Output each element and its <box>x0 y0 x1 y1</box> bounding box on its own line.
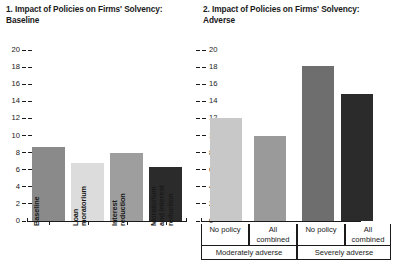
x-tick-mark <box>88 222 89 225</box>
bar <box>341 94 373 221</box>
y-tick-mark <box>22 186 26 187</box>
y-tick-mark <box>22 152 26 153</box>
x-axis-line-right <box>201 221 361 222</box>
category-cell: No policy <box>297 224 345 246</box>
category-cell: No policy <box>201 224 249 246</box>
y-tick-mark <box>28 50 32 51</box>
y-tick-mark <box>196 221 200 222</box>
y-tick-mark <box>202 50 206 51</box>
y-tick-label: 14 <box>12 97 20 105</box>
y-tick-mark <box>22 50 26 51</box>
y-tick-mark <box>196 84 200 85</box>
group-cell: Severely adverse <box>297 246 391 260</box>
y-tick-mark <box>196 118 200 119</box>
y-tick-mark <box>202 118 206 119</box>
y-tick-label: 4 <box>16 183 20 191</box>
y-tick-mark <box>202 101 206 102</box>
y-tick-mark <box>202 135 206 136</box>
panel-baseline: 1. Impact of Policies on Firms' Solvency… <box>0 0 197 272</box>
y-tick-mark <box>196 186 200 187</box>
y-tick-mark <box>22 67 26 68</box>
y-tick-label: 20 <box>209 46 217 54</box>
y-tick-label: 8 <box>16 149 20 157</box>
x-tick-mark <box>49 222 50 225</box>
x-category-label: Moratorium and interest reduction <box>150 182 175 226</box>
y-tick-mark <box>22 203 26 204</box>
x-tick-mark <box>166 222 167 225</box>
y-tick-mark <box>196 101 200 102</box>
y-tick-label: 2 <box>16 200 20 208</box>
plot-area-adverse: 02468101214161820 <box>201 50 361 222</box>
x-category-label: Baseline <box>33 182 41 226</box>
y-tick-label: 14 <box>209 97 217 105</box>
y-tick-mark <box>202 84 206 85</box>
panel-title-adverse: 2. Impact of Policies on Firms' Solvency… <box>203 4 391 26</box>
y-tick-mark <box>202 203 206 204</box>
bar <box>254 136 286 222</box>
x-tick-mark <box>127 222 128 225</box>
y-tick-mark <box>196 152 200 153</box>
y-tick-mark <box>28 118 32 119</box>
y-tick-mark <box>202 67 206 68</box>
bar <box>302 66 334 221</box>
x-category-label: Loan moratorium <box>72 182 89 226</box>
bar <box>210 118 242 221</box>
y-tick-label: 12 <box>12 114 20 122</box>
y-tick-mark <box>196 50 200 51</box>
panel-title-baseline: 1. Impact of Policies on Firms' Solvency… <box>6 4 191 26</box>
category-cell: All combined <box>249 224 297 246</box>
group-cell: Moderately adverse <box>201 246 297 260</box>
y-tick-label: 18 <box>209 63 217 71</box>
y-tick-label: 16 <box>209 80 217 88</box>
y-tick-mark <box>28 67 32 68</box>
y-tick-label: 20 <box>12 46 20 54</box>
category-cell: All combined <box>345 224 391 246</box>
y-tick-label: 10 <box>12 132 20 140</box>
y-tick-mark <box>22 135 26 136</box>
x-category-label: Interest reduction <box>111 182 128 226</box>
y-tick-mark <box>28 84 32 85</box>
y-tick-mark <box>202 221 206 222</box>
y-tick-mark <box>202 169 206 170</box>
y-tick-mark <box>28 101 32 102</box>
y-tick-label: 0 <box>16 217 20 225</box>
y-tick-mark <box>22 118 26 119</box>
y-tick-mark <box>22 221 26 222</box>
y-tick-mark <box>202 152 206 153</box>
y-tick-mark <box>196 135 200 136</box>
y-tick-mark <box>196 203 200 204</box>
y-tick-label: 6 <box>16 166 20 174</box>
y-tick-mark <box>22 101 26 102</box>
y-tick-mark <box>202 186 206 187</box>
figure-container: 1. Impact of Policies on Firms' Solvency… <box>0 0 394 272</box>
y-tick-mark <box>22 169 26 170</box>
y-tick-mark <box>196 67 200 68</box>
panel-adverse: 2. Impact of Policies on Firms' Solvency… <box>197 0 394 272</box>
y-tick-label: 16 <box>12 80 20 88</box>
y-tick-mark <box>22 84 26 85</box>
y-tick-mark <box>196 169 200 170</box>
y-tick-label: 18 <box>12 63 20 71</box>
axis-corner-left-inner <box>186 218 187 222</box>
y-tick-mark <box>28 135 32 136</box>
